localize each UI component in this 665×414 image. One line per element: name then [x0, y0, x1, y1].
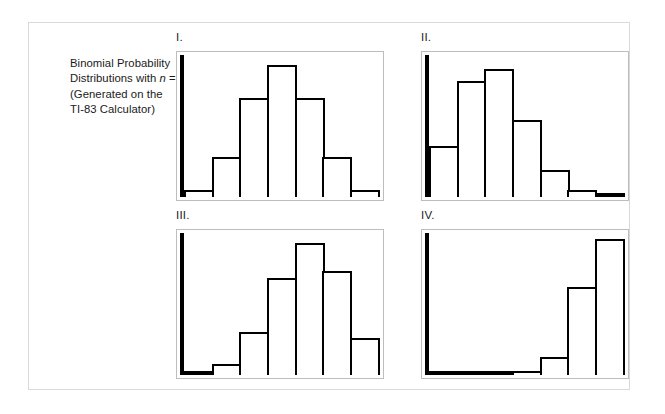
bar-1-0	[184, 190, 214, 197]
bar-3-1	[212, 364, 242, 375]
plot-area-4	[425, 233, 625, 375]
bar-series-1	[184, 55, 380, 197]
bar-3-2	[239, 332, 269, 375]
bar-4-0	[429, 373, 459, 376]
bar-1-4	[295, 98, 325, 197]
bar-1-1	[212, 157, 242, 197]
bar-2-3	[512, 120, 542, 197]
panel-histogram-4: IV.	[421, 209, 641, 379]
panel-histogram-1: I.	[176, 31, 396, 201]
bar-2-6	[595, 195, 625, 198]
bar-series-4	[429, 233, 625, 375]
bar-4-4	[540, 357, 570, 375]
caption-line-4: TI-83 Calculator)	[70, 103, 155, 115]
panel-label-1: I.	[176, 31, 183, 43]
plot-area-3	[180, 233, 380, 375]
bar-4-2	[484, 373, 514, 376]
caption-line-2-prefix: Distributions with	[70, 72, 159, 84]
panel-histogram-3: III.	[176, 209, 396, 379]
bar-2-4	[540, 170, 570, 197]
bar-3-4	[295, 243, 325, 375]
plot-frame-4	[421, 229, 629, 379]
panel-label-4: IV.	[421, 209, 435, 221]
bar-4-6	[595, 239, 625, 375]
plot-area-2	[425, 55, 625, 197]
bar-4-3	[512, 371, 542, 375]
plot-frame-3	[176, 229, 384, 379]
bar-series-3	[184, 233, 380, 375]
bar-2-5	[567, 190, 597, 197]
caption-line-3: (Generated on the	[70, 88, 163, 100]
bar-3-0	[184, 373, 214, 376]
bar-4-5	[567, 287, 597, 375]
bar-series-2	[429, 55, 625, 197]
bar-2-2	[484, 69, 514, 197]
bar-1-3	[267, 65, 297, 197]
bar-2-1	[457, 81, 487, 197]
bar-1-6	[350, 190, 380, 197]
figure-frame: Binomial Probability Distributions with …	[28, 22, 630, 390]
plot-area-1	[180, 55, 380, 197]
bar-3-3	[267, 278, 297, 375]
plot-frame-1	[176, 51, 384, 201]
panel-histogram-2: II.	[421, 31, 641, 201]
bar-1-2	[239, 98, 269, 197]
panel-label-2: II.	[421, 31, 431, 43]
bar-1-5	[322, 157, 352, 197]
bar-3-6	[350, 338, 380, 375]
caption-line-1: Binomial Probability	[70, 57, 170, 69]
bar-3-5	[322, 271, 352, 375]
panel-label-3: III.	[176, 209, 190, 221]
bar-2-0	[429, 146, 459, 197]
bar-4-1	[457, 373, 487, 376]
plot-frame-2	[421, 51, 629, 201]
